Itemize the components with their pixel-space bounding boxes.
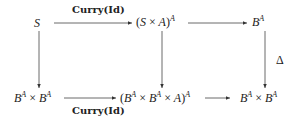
times-symbol: × <box>139 91 146 105</box>
s-symbol: S <box>140 15 146 29</box>
exponent: A <box>170 14 175 23</box>
exponent: A <box>46 90 51 99</box>
node-ba-ba-a-exp-a: (BA × BA × A)A <box>120 91 190 104</box>
node-s-base: S <box>34 16 40 30</box>
exponent: A <box>247 90 252 99</box>
exponent: A <box>272 90 277 99</box>
exponent: A <box>259 14 264 23</box>
node-b-exp-a-top: BA <box>252 15 264 28</box>
label-curry-id-top: Curry(Id) <box>72 5 125 15</box>
node-s: S <box>34 17 40 29</box>
times-symbol: × <box>164 91 171 105</box>
label-curry-id-bottom: Curry(Id) <box>72 106 125 116</box>
exponent: A <box>185 90 190 99</box>
exponent: A <box>156 90 161 99</box>
node-ba-times-ba-left: BA × BA <box>14 91 51 104</box>
exponent: A <box>21 90 26 99</box>
exponent: A <box>131 90 136 99</box>
times-symbol: × <box>255 91 262 105</box>
node-s-times-a-exp-a: (S × A)A <box>136 15 175 28</box>
times-symbol: × <box>149 15 156 29</box>
a-symbol: A <box>159 15 166 29</box>
label-delta: Δ <box>276 54 284 66</box>
times-symbol: × <box>29 91 36 105</box>
node-ba-times-ba-right: BA × BA <box>240 91 277 104</box>
